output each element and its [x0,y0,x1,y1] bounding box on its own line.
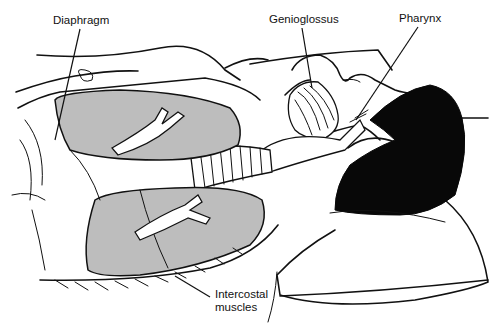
genioglossus-muscle [288,82,338,139]
lower-lung-lobe [86,188,264,276]
hair [335,85,465,215]
label-diaphragm: Diaphragm [53,14,109,27]
label-pharynx: Pharynx [399,12,441,25]
anatomy-illustration [0,0,497,325]
intercostal-pointer [175,276,210,297]
label-genioglossus: Genioglossus [269,13,339,26]
label-intercostal-muscles: Intercostal muscles [215,288,268,314]
